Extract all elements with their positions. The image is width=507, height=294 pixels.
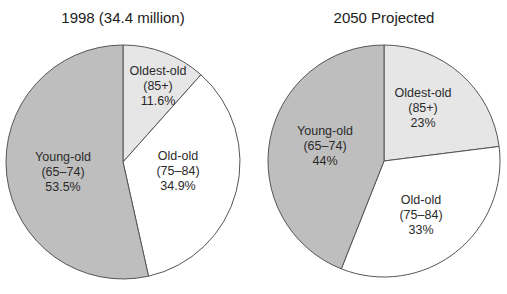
- svg-text:34.9%: 34.9%: [160, 179, 195, 193]
- svg-text:Oldest-old: Oldest-old: [130, 64, 187, 78]
- svg-text:53.5%: 53.5%: [45, 180, 80, 194]
- svg-text:Old-old: Old-old: [401, 193, 441, 207]
- pie-charts: Oldest-old (85+) 11.6% Old-old (75–84) 3…: [0, 0, 507, 294]
- svg-text:(85+): (85+): [408, 101, 438, 115]
- svg-text:(85+): (85+): [143, 79, 173, 93]
- svg-text:23%: 23%: [410, 116, 435, 130]
- svg-text:(65–74): (65–74): [303, 139, 346, 153]
- svg-text:33%: 33%: [408, 223, 433, 237]
- svg-text:Young-old: Young-old: [35, 150, 91, 164]
- svg-text:(75–84): (75–84): [399, 208, 442, 222]
- svg-text:Old-old: Old-old: [158, 149, 198, 163]
- svg-text:Young-old: Young-old: [297, 124, 353, 138]
- svg-text:(65–74): (65–74): [41, 165, 84, 179]
- svg-text:11.6%: 11.6%: [141, 94, 176, 108]
- pie-2050: [268, 45, 500, 277]
- pie-slice: [384, 45, 499, 161]
- svg-text:Oldest-old: Oldest-old: [395, 86, 452, 100]
- label-1998-old-old: Old-old (75–84) 34.9%: [156, 149, 199, 193]
- svg-text:44%: 44%: [312, 154, 337, 168]
- svg-text:(75–84): (75–84): [156, 164, 199, 178]
